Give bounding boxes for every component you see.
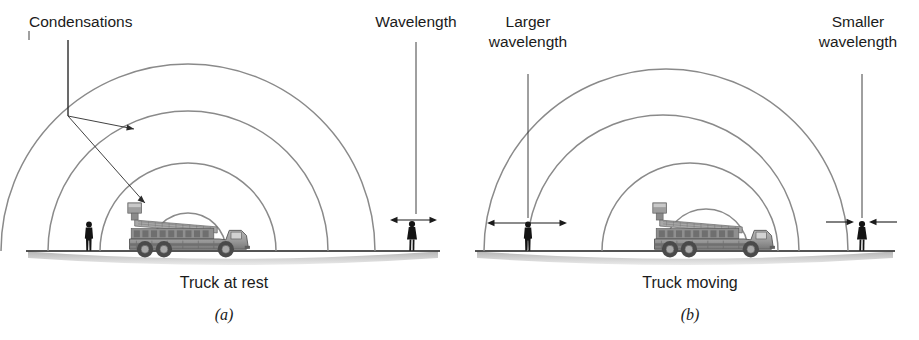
wavefront-a-4 xyxy=(1,64,375,251)
label-larger-wavelength-line1: Larger xyxy=(506,13,551,30)
panel-b-observer-ahead xyxy=(857,221,867,251)
figure-canvas: Condensations Wavelength Truck at rest (… xyxy=(0,0,919,340)
label-smaller-wavelength-line2: wavelength xyxy=(818,33,897,50)
panel-a-observer xyxy=(407,221,417,251)
condensations-leader xyxy=(29,31,145,203)
label-wavelength: Wavelength xyxy=(375,13,456,30)
label-smaller-wavelength-line1: Smaller xyxy=(832,13,885,30)
panel-b-observer-behind xyxy=(524,222,532,251)
doppler-effect-figure: Condensations Wavelength Truck at rest (… xyxy=(0,0,919,340)
panel-a: Condensations Wavelength Truck at rest (… xyxy=(1,13,457,324)
label-larger-wavelength-line2: wavelength xyxy=(488,33,567,50)
panel-b-fire-truck xyxy=(653,203,775,258)
panel-a-ground-shadow xyxy=(28,252,438,266)
panel-a-letter: (a) xyxy=(215,306,234,324)
panel-b-caption: Truck moving xyxy=(642,274,737,291)
panel-b-letter: (b) xyxy=(681,306,700,324)
label-condensations: Condensations xyxy=(29,13,133,30)
panel-b: Larger wavelength Smaller wavelength Tru… xyxy=(475,13,897,324)
panel-a-bystander xyxy=(85,222,93,251)
panel-a-fire-truck xyxy=(128,203,250,258)
panel-a-caption: Truck at rest xyxy=(180,274,269,291)
panel-a-wavefronts xyxy=(1,64,375,251)
